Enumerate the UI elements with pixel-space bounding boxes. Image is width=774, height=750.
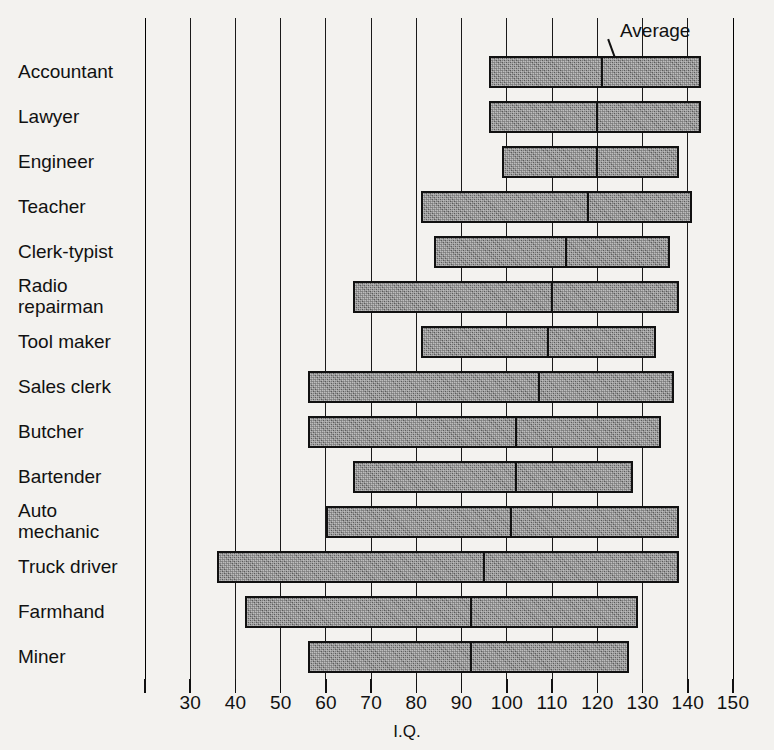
plot-area: 30405060708090100110120130140150 Account… <box>0 0 774 750</box>
average-marker <box>515 461 517 493</box>
bar-row <box>326 506 679 538</box>
x-tick-label-30: 30 <box>179 692 201 714</box>
x-tick-60 <box>325 679 327 693</box>
gridline-30 <box>190 18 191 693</box>
category-label-11: Truck driver <box>18 556 118 577</box>
category-label-6: Tool maker <box>18 331 111 352</box>
x-tick-150 <box>732 679 734 693</box>
gridline-60 <box>325 18 326 693</box>
x-tick-label-100: 100 <box>491 692 523 714</box>
x-tick-label-40: 40 <box>225 692 247 714</box>
category-label-0: Accountant <box>18 61 113 82</box>
bar-row <box>217 551 678 583</box>
x-tick-label-80: 80 <box>406 692 428 714</box>
gridline-50 <box>280 18 281 693</box>
x-tick-label-150: 150 <box>717 692 749 714</box>
category-label-5: Radio repairman <box>18 275 104 317</box>
bar-row <box>421 326 656 358</box>
x-tick-140 <box>687 679 689 693</box>
x-tick-120 <box>597 679 599 693</box>
average-marker <box>587 191 589 223</box>
average-marker <box>515 416 517 448</box>
bar-row <box>421 191 692 223</box>
average-marker <box>565 236 567 268</box>
x-axis-title-text: I.Q. <box>393 722 420 741</box>
x-tick-label-50: 50 <box>270 692 292 714</box>
gridline-40 <box>235 18 236 693</box>
gridline-80 <box>416 18 417 693</box>
bar-row <box>502 146 678 178</box>
average-marker <box>596 101 598 133</box>
category-label-1: Lawyer <box>18 106 79 127</box>
category-label-9: Bartender <box>18 466 101 487</box>
x-tick-100 <box>506 679 508 693</box>
average-marker <box>470 641 472 673</box>
bar-row <box>489 101 702 133</box>
x-tick-label-70: 70 <box>360 692 382 714</box>
bar-row <box>353 281 679 313</box>
category-label-8: Butcher <box>18 421 83 442</box>
category-label-3: Teacher <box>18 196 86 217</box>
bar-row <box>245 596 639 628</box>
x-tick-90 <box>461 679 463 693</box>
x-tick-label-130: 130 <box>626 692 658 714</box>
x-tick-30 <box>189 679 191 693</box>
category-label-12: Farmhand <box>18 601 105 622</box>
gridline-150 <box>733 18 735 693</box>
x-tick-130 <box>642 679 644 693</box>
x-tick-20 <box>144 679 146 693</box>
average-annotation-label: Average <box>620 20 690 42</box>
x-tick-label-120: 120 <box>581 692 613 714</box>
gridline-20 <box>145 18 147 693</box>
x-tick-50 <box>280 679 282 693</box>
average-marker <box>483 551 485 583</box>
x-tick-label-140: 140 <box>672 692 704 714</box>
average-marker <box>601 56 603 88</box>
x-tick-label-60: 60 <box>315 692 337 714</box>
category-label-2: Engineer <box>18 151 94 172</box>
x-tick-70 <box>370 679 372 693</box>
bar-row <box>308 641 629 673</box>
x-tick-110 <box>551 679 553 693</box>
x-tick-40 <box>235 679 237 693</box>
average-marker <box>547 326 549 358</box>
category-label-4: Clerk-typist <box>18 241 113 262</box>
x-tick-label-90: 90 <box>451 692 473 714</box>
category-label-13: Miner <box>18 646 66 667</box>
gridline-70 <box>371 18 372 693</box>
x-axis-title: I.Q. <box>0 722 774 742</box>
category-label-10: Auto mechanic <box>18 500 99 542</box>
category-label-7: Sales clerk <box>18 376 111 397</box>
average-marker <box>538 371 540 403</box>
bar-row <box>308 371 674 403</box>
chart-figure: 30405060708090100110120130140150 Account… <box>0 0 774 750</box>
x-tick-80 <box>416 679 418 693</box>
bar-row <box>434 236 669 268</box>
bar-row <box>489 56 702 88</box>
bar-row <box>308 416 661 448</box>
average-marker <box>510 506 512 538</box>
bar-row <box>353 461 633 493</box>
average-marker <box>470 596 472 628</box>
average-marker <box>551 281 553 313</box>
x-tick-label-110: 110 <box>537 692 568 714</box>
average-marker <box>596 146 598 178</box>
